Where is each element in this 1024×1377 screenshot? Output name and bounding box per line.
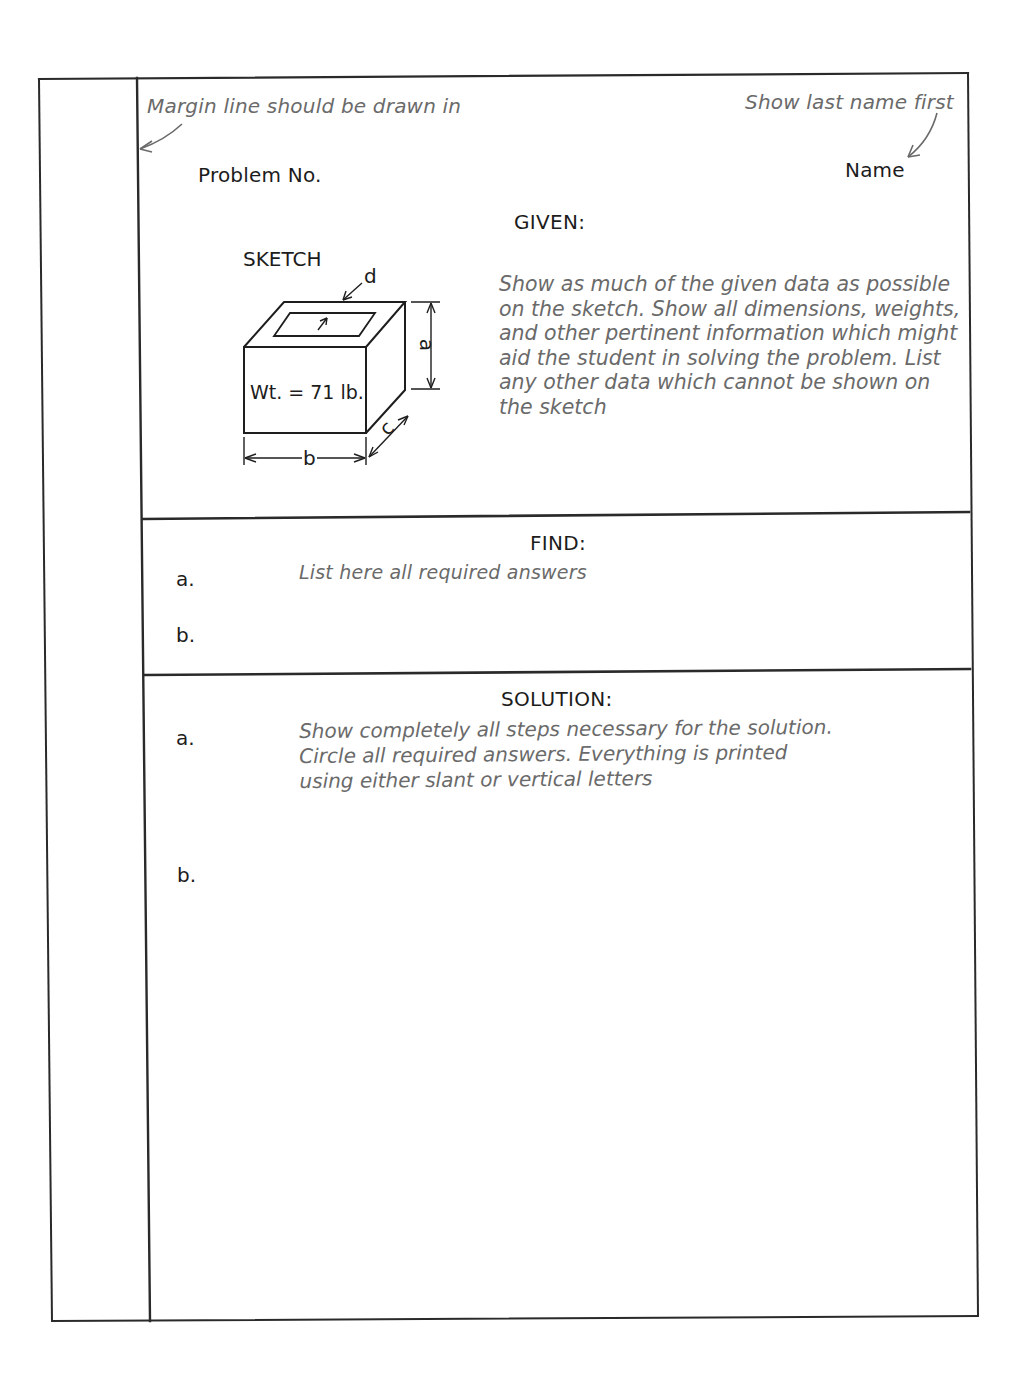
name-note-arrow — [908, 113, 937, 157]
find-item-a-label: a. — [176, 567, 195, 591]
problem-number-label: Problem No. — [198, 163, 322, 187]
sketch-label: SKETCH — [243, 247, 322, 271]
margin-line-note: Margin line should be drawn in — [147, 94, 461, 118]
given-instruction-line: aid the student in solving the problem. … — [499, 346, 960, 371]
given-instruction-line: and other pertinent information which mi… — [499, 321, 960, 346]
dimension-a-label: a — [415, 339, 439, 351]
given-instructions: Show as much of the given data as possib… — [499, 272, 960, 419]
given-instruction-line: Show as much of the given data as possib… — [499, 272, 960, 297]
find-heading: FIND: — [530, 531, 586, 555]
given-instruction-line: any other data which cannot be shown on — [499, 370, 960, 395]
solution-instruction-line: using either slant or vertical letters — [299, 765, 833, 794]
outer-border-right — [968, 73, 978, 1316]
given-heading: GIVEN: — [514, 210, 585, 234]
name-order-note: Show last name first — [745, 90, 954, 114]
dimension-b-label: b — [302, 446, 317, 470]
find-item-b-label: b. — [176, 623, 195, 647]
solution-instructions: Show completely all steps necessary for … — [299, 715, 833, 794]
outer-border-top — [39, 73, 968, 79]
find-divider — [143, 512, 969, 519]
sketch-weight-label: Wt. = 71 lb. — [250, 381, 364, 403]
outer-border-bottom — [52, 1316, 978, 1321]
solution-instruction-line: Circle all required answers. Everything … — [299, 740, 833, 769]
margin-line — [137, 78, 150, 1321]
solution-heading: SOLUTION: — [501, 687, 612, 711]
name-label: Name — [845, 158, 905, 182]
solution-item-a-label: a. — [176, 726, 195, 750]
dimension-d-label: d — [364, 264, 377, 288]
find-item-a-text: List here all required answers — [299, 561, 587, 583]
solution-item-b-label: b. — [177, 863, 196, 887]
outer-border-left — [39, 79, 52, 1321]
solution-divider — [145, 669, 970, 675]
sketch-dimensions — [244, 283, 440, 465]
given-instruction-line: the sketch — [499, 395, 960, 420]
given-instruction-line: on the sketch. Show all dimensions, weig… — [499, 297, 960, 322]
